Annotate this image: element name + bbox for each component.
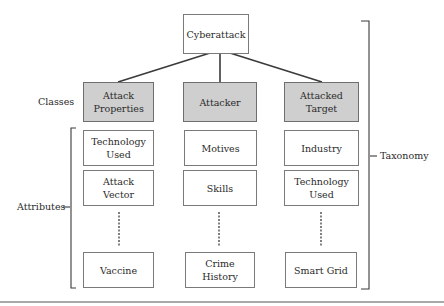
attribute-label: Industry [301, 142, 342, 155]
class-node-attack-properties: Attack Properties [83, 82, 154, 122]
class-node-label: Attacker [199, 96, 240, 109]
attribute-label: Skills [207, 182, 233, 195]
class-node-label: Attack Properties [94, 89, 144, 115]
classes-row-label: Classes [38, 95, 74, 108]
class-node-attacked-target: Attacked Target [284, 82, 359, 122]
attribute-node: Technology Used [284, 170, 359, 206]
attribute-label: Crime History [198, 257, 243, 283]
attribute-label: Motives [201, 142, 239, 155]
root-node-label: Cyberattack [187, 28, 246, 41]
attribute-node: Attack Vector [83, 170, 154, 206]
attribute-node: Vaccine [83, 252, 154, 288]
attributes-row-label: Attributes [17, 200, 65, 213]
taxonomy-label: Taxonomy [380, 149, 429, 162]
attribute-node: Skills [183, 170, 257, 206]
class-node-label: Attacked Target [297, 89, 347, 115]
attribute-label: Smart Grid [294, 264, 348, 277]
attribute-label: Technology Used [89, 135, 149, 161]
attribute-node: Industry [284, 130, 359, 166]
class-node-attacker: Attacker [183, 82, 257, 122]
attribute-node: Smart Grid [285, 252, 357, 288]
attribute-node: Technology Used [83, 130, 154, 166]
attribute-label: Vaccine [100, 264, 137, 277]
root-node-cyberattack: Cyberattack [183, 14, 249, 54]
attribute-node: Crime History [185, 252, 255, 288]
attribute-label: Technology Used [292, 175, 352, 201]
attribute-node: Motives [184, 130, 257, 166]
attribute-label: Attack Vector [96, 175, 141, 201]
